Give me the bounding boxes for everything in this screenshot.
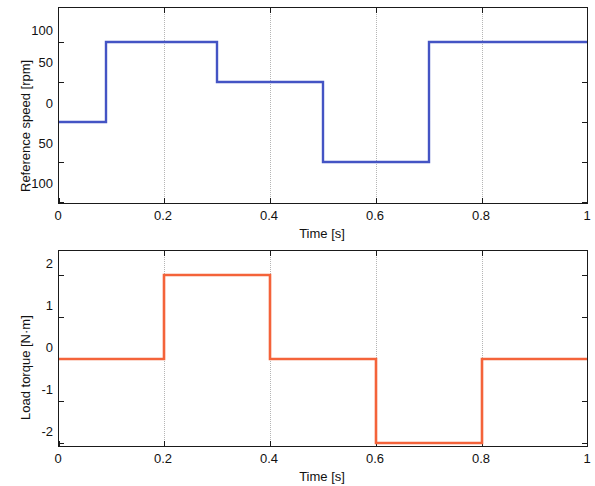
top-plot-y-tick-label: -100 bbox=[0, 176, 53, 191]
top-plot-y-tick-label: 50 bbox=[0, 136, 53, 151]
top-plot-y-tick-label: 0 bbox=[0, 96, 53, 111]
bottom-plot-y-axis-label: Load torque [N·m] bbox=[18, 315, 33, 420]
bottom-plot-x-axis-label: Time [s] bbox=[262, 469, 382, 484]
top-plot-panel: Reference speed [rpm] 100 50 0 50 -100 bbox=[0, 0, 588, 243]
bottom-plot-y-tick-label: -1 bbox=[0, 382, 53, 397]
load-torque-trace bbox=[59, 251, 588, 447]
bottom-plot-x-tick-label: 0.2 bbox=[133, 451, 193, 466]
top-plot-x-tick-label: 0.8 bbox=[451, 208, 511, 223]
bottom-plot-axes bbox=[58, 250, 588, 447]
top-plot-x-axis-label: Time [s] bbox=[262, 226, 382, 241]
bottom-plot-panel: Load torque [N·m] 2 1 0 -1 -2 bbox=[0, 243, 588, 486]
bottom-plot-y-tick-label: 1 bbox=[0, 298, 53, 313]
bottom-plot-y-tick-label: 2 bbox=[0, 256, 53, 271]
top-plot-x-tick-label: 0.6 bbox=[345, 208, 405, 223]
top-plot-x-tick-label: 0.4 bbox=[239, 208, 299, 223]
top-plot-x-tick-label: 0 bbox=[28, 208, 88, 223]
bottom-plot-x-tick-label: 0.8 bbox=[451, 451, 511, 466]
bottom-plot-x-tick-label: 0.4 bbox=[239, 451, 299, 466]
top-plot-axes bbox=[58, 7, 588, 204]
top-plot-y-tick-label: 50 bbox=[0, 55, 53, 70]
bottom-plot-x-tick-label: 0 bbox=[28, 451, 88, 466]
bottom-plot-y-tick-label: -2 bbox=[0, 424, 53, 439]
bottom-plot-y-tick-label: 0 bbox=[0, 340, 53, 355]
top-plot-x-tick-label: 0.2 bbox=[133, 208, 193, 223]
bottom-plot-x-tick-label: 0.6 bbox=[345, 451, 405, 466]
bottom-plot-x-tick-label: 1 bbox=[557, 451, 595, 466]
top-plot-x-tick-label: 1 bbox=[557, 208, 595, 223]
reference-speed-trace bbox=[59, 8, 588, 204]
top-plot-y-tick-label: 100 bbox=[0, 23, 53, 38]
top-plot-y-axis-label: Reference speed [rpm] bbox=[18, 60, 33, 192]
